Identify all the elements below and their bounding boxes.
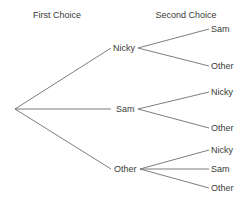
branch-nicky-other [138, 48, 209, 66]
node-first-other: Other [114, 164, 137, 174]
node-sam-nicky: Nicky [211, 87, 233, 97]
first-choice-header: First Choice [33, 10, 81, 20]
branch-other-other [140, 169, 209, 188]
node-first-sam: Sam [116, 104, 135, 114]
node-nicky-sam: Sam [211, 24, 230, 34]
branch-other-nicky [140, 150, 209, 169]
branch-sam-nicky [138, 92, 209, 109]
node-sam-other: Other [211, 123, 234, 133]
branch-sam-other [138, 109, 209, 128]
node-other-nicky: Nicky [211, 145, 233, 155]
branch-nicky-sam [138, 29, 209, 48]
branch-root-nicky [15, 48, 111, 109]
node-first-nicky: Nicky [113, 43, 135, 53]
node-other-other: Other [211, 183, 234, 193]
node-nicky-other: Other [211, 61, 234, 71]
branch-root-other [15, 109, 111, 169]
second-choice-header: Second Choice [155, 10, 216, 20]
node-other-sam: Sam [211, 164, 230, 174]
